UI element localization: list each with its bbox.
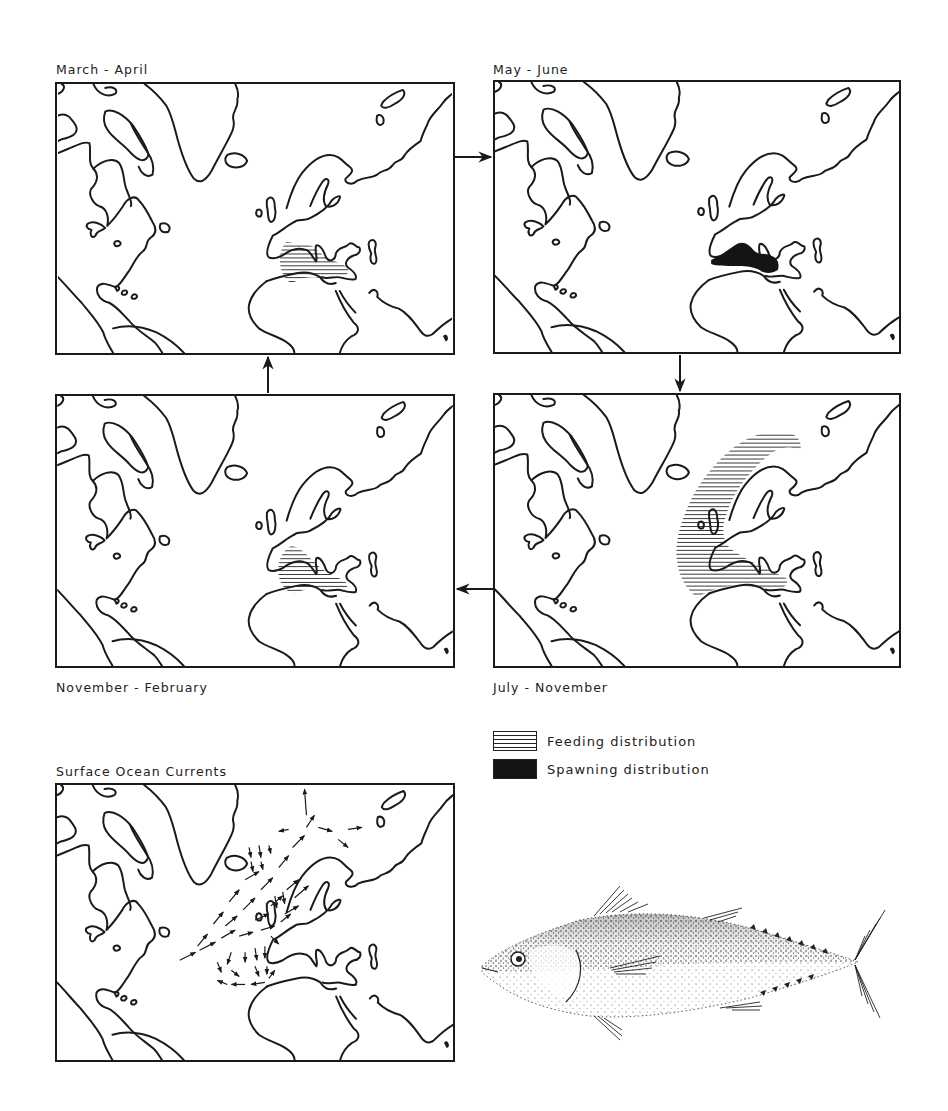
legend-item-spawning: Spawning distribution: [493, 755, 710, 783]
map-panel-july-november: [493, 393, 901, 668]
map-surface-currents: [57, 785, 453, 1060]
current-arrows: [180, 789, 362, 984]
map-july-november: [495, 395, 899, 666]
map-panel-march-april: [55, 82, 455, 355]
panel-title-march-april: March - April: [56, 62, 148, 77]
hatch-swatch-icon: [493, 731, 537, 751]
legend-label-spawning: Spawning distribution: [547, 762, 710, 777]
feeding-area: [676, 433, 800, 597]
panel-title-july-november: July - November: [493, 680, 608, 695]
map-november-february: [57, 396, 453, 666]
legend-item-feeding: Feeding distribution: [493, 727, 710, 755]
panel-title-surface-currents: Surface Ocean Currents: [56, 764, 227, 779]
spawning-area: [711, 243, 778, 273]
arrow-left-icon: [453, 582, 495, 596]
map-march-april: [57, 84, 453, 353]
arrow-up-icon: [261, 353, 275, 395]
panel-title-november-february: November - February: [56, 680, 208, 695]
legend-label-feeding: Feeding distribution: [547, 734, 696, 749]
solid-swatch-icon: [493, 759, 537, 779]
tuna-illustration: [470, 870, 900, 1060]
arrow-right-icon: [453, 150, 495, 164]
panel-title-may-june: May - June: [493, 62, 569, 77]
map-panel-may-june: [493, 80, 901, 354]
arrow-down-icon: [673, 353, 687, 395]
map-panel-november-february: [55, 394, 455, 668]
map-panel-surface-currents: [55, 783, 455, 1062]
legend: Feeding distribution Spawning distributi…: [493, 727, 710, 783]
map-may-june: [495, 82, 899, 352]
